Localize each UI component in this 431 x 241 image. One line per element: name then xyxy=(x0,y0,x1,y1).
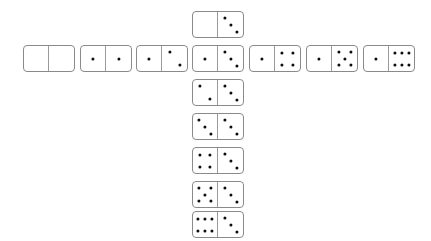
domino-1-1-left-half xyxy=(81,46,106,71)
domino-1-5[interactable] xyxy=(306,45,358,72)
domino-3-3-right-half xyxy=(218,114,243,139)
pip xyxy=(223,84,226,87)
domino-6-3-right-half xyxy=(218,212,243,237)
pip xyxy=(223,50,226,53)
domino-0-3-left-half xyxy=(193,12,218,37)
pip xyxy=(337,63,340,66)
pip xyxy=(235,64,238,67)
domino-1-6[interactable] xyxy=(363,45,415,72)
pip xyxy=(337,50,340,53)
pip xyxy=(317,57,320,60)
domino-1-2-left-half xyxy=(137,46,162,71)
domino-5-3-right-half xyxy=(218,182,243,207)
domino-1-0-right-half xyxy=(49,46,74,71)
pip xyxy=(280,51,283,54)
pip xyxy=(349,50,352,53)
pip xyxy=(407,63,410,66)
domino-2-3-left-half xyxy=(193,80,218,105)
pip xyxy=(209,199,212,202)
pip xyxy=(210,217,213,220)
pip xyxy=(178,63,181,66)
domino-1-0-left-half xyxy=(24,46,49,71)
pip xyxy=(343,57,346,60)
domino-1-2-right-half xyxy=(162,46,187,71)
domino-0-3[interactable] xyxy=(192,11,244,38)
pip xyxy=(280,63,283,66)
pip xyxy=(235,132,238,135)
pip xyxy=(235,166,238,169)
domino-1-6-right-half xyxy=(389,46,414,71)
pip xyxy=(203,125,206,128)
domino-6-3[interactable] xyxy=(192,211,244,238)
pip xyxy=(223,16,226,19)
pip xyxy=(199,85,202,88)
domino-1-4[interactable] xyxy=(249,45,301,72)
pip xyxy=(197,229,200,232)
domino-2-3[interactable] xyxy=(192,79,244,106)
domino-1-1-right-half xyxy=(106,46,131,71)
pip xyxy=(197,217,200,220)
pip xyxy=(198,165,201,168)
pip xyxy=(147,57,150,60)
pip xyxy=(407,51,410,54)
pip xyxy=(209,186,212,189)
pip xyxy=(229,23,232,26)
pip xyxy=(198,199,201,202)
pip xyxy=(235,98,238,101)
domino-1-3-left-half xyxy=(193,46,218,71)
pip xyxy=(291,63,294,66)
domino-1-2[interactable] xyxy=(136,45,188,72)
pip xyxy=(229,57,232,60)
pip xyxy=(203,193,206,196)
domino-3-3[interactable] xyxy=(192,113,244,140)
pip xyxy=(291,51,294,54)
pip xyxy=(229,125,232,128)
domino-1-1[interactable] xyxy=(80,45,132,72)
pip xyxy=(209,153,212,156)
pip xyxy=(223,216,226,219)
pip xyxy=(349,63,352,66)
pip xyxy=(260,57,263,60)
pip xyxy=(229,159,232,162)
domino-1-0[interactable] xyxy=(23,45,75,72)
domino-4-3-left-half xyxy=(193,148,218,173)
pip xyxy=(168,51,171,54)
domino-3-3-left-half xyxy=(193,114,218,139)
pip xyxy=(198,186,201,189)
domino-1-4-left-half xyxy=(250,46,275,71)
domino-4-3-right-half xyxy=(218,148,243,173)
pip xyxy=(223,152,226,155)
domino-6-3-left-half xyxy=(193,212,218,237)
domino-0-3-right-half xyxy=(218,12,243,37)
pip xyxy=(198,118,201,121)
domino-5-3[interactable] xyxy=(192,181,244,208)
pip xyxy=(209,165,212,168)
pip xyxy=(203,57,206,60)
pip xyxy=(208,97,211,100)
pip xyxy=(235,230,238,233)
pip xyxy=(374,57,377,60)
pip xyxy=(229,223,232,226)
domino-1-6-left-half xyxy=(364,46,389,71)
pip xyxy=(117,57,120,60)
pip xyxy=(91,57,94,60)
pip xyxy=(393,51,396,54)
pip xyxy=(209,132,212,135)
domino-2-3-right-half xyxy=(218,80,243,105)
pip xyxy=(198,153,201,156)
domino-board xyxy=(0,0,431,241)
domino-1-3-right-half xyxy=(218,46,243,71)
pip xyxy=(235,30,238,33)
pip xyxy=(235,200,238,203)
pip xyxy=(229,91,232,94)
pip xyxy=(210,229,213,232)
pip xyxy=(400,51,403,54)
pip xyxy=(229,193,232,196)
domino-4-3[interactable] xyxy=(192,147,244,174)
domino-1-5-left-half xyxy=(307,46,332,71)
pip xyxy=(223,186,226,189)
domino-1-5-right-half xyxy=(332,46,357,71)
domino-1-3[interactable] xyxy=(192,45,244,72)
domino-1-4-right-half xyxy=(275,46,300,71)
pip xyxy=(400,63,403,66)
